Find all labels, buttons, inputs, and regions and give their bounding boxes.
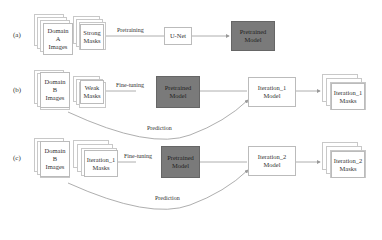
row-label-c: (c): [13, 154, 21, 162]
label-pretraining: Pretraining: [117, 27, 144, 33]
label-fine-tuning-c: Fine-tuning: [124, 153, 152, 159]
iteration-1-model: Iteration_1 Model: [248, 77, 296, 107]
unet-box: U-Net: [164, 27, 192, 45]
iteration-2-masks-output: Iteration_2 Masks: [331, 151, 365, 178]
iteration-2-model: Iteration_2 Model: [248, 146, 296, 176]
iteration-1-masks-input: Iteration_1 Masks: [84, 150, 118, 177]
row-label-a: (a): [13, 31, 21, 39]
pretrained-model-c: Pretrained Model: [161, 146, 200, 178]
iteration-1-masks-output: Iteration_1 Masks: [331, 83, 365, 110]
domain-a-images: Domain A Images: [43, 23, 73, 55]
label-prediction-c: Prediction: [155, 195, 180, 201]
domain-b-images-c: Domain B Images: [40, 141, 70, 177]
strong-masks: Strong Masks: [80, 24, 104, 50]
pretrained-model-b: Pretrained Model: [156, 76, 200, 108]
label-fine-tuning-b: Fine-tuning: [116, 82, 144, 88]
row-label-b: (b): [13, 86, 21, 94]
domain-b-images: Domain B Images: [40, 72, 70, 108]
weak-masks: Weak Masks: [80, 80, 104, 104]
label-prediction-b: Prediction: [147, 125, 172, 131]
pretrained-model-a: Pretrained Model: [231, 21, 275, 51]
